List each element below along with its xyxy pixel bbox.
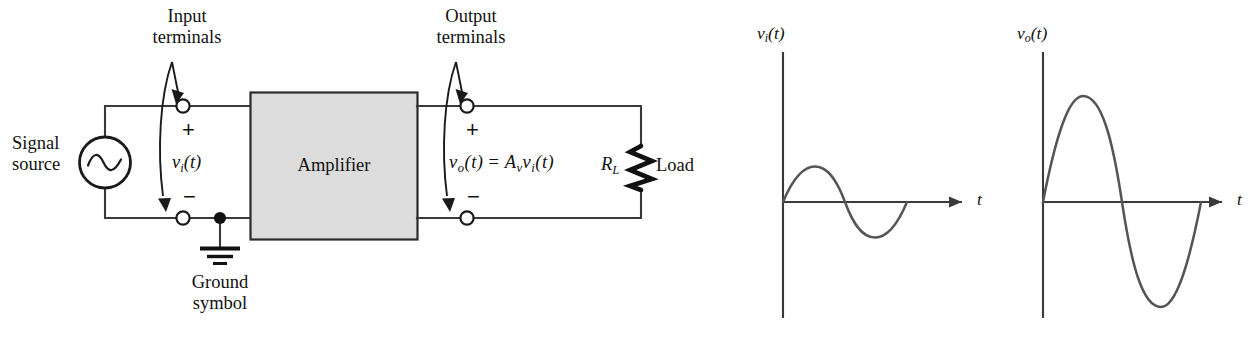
amplifier-label: Amplifier — [298, 155, 371, 176]
equation-lhs-subscript: o — [458, 161, 465, 175]
load-resistor-icon — [630, 146, 652, 190]
load-resistor-subscript: L — [612, 163, 619, 177]
input-plot-y-axis-label: vi(t) — [757, 24, 785, 46]
input-plus-sign: + — [182, 118, 195, 143]
input-plot-y-arg: (t) — [768, 23, 785, 43]
wire-output-top-to-load — [474, 106, 641, 146]
signal-source-label-line1: Signal — [12, 133, 60, 154]
input-terminal-negative — [176, 211, 189, 224]
ground-symbol-label-line2: symbol — [192, 293, 249, 314]
input-terminals-label-line1: Input — [153, 6, 222, 27]
ac-source-circle — [80, 137, 131, 188]
ground-symbol-label: Ground symbol — [192, 272, 249, 313]
signal-source-label-line2: source — [12, 154, 60, 175]
input-terminals-label-line2: terminals — [153, 27, 222, 48]
input-terminals-label: Input terminals — [153, 6, 222, 47]
wire-source-to-input-top — [105, 106, 176, 137]
input-voltage-arg: (t) — [184, 152, 201, 172]
equation-lhs-arg: (t) — [465, 152, 484, 172]
ground-symbol-label-line1: Ground — [192, 272, 249, 293]
input-voltage-var: v — [172, 152, 180, 172]
equation-rhs-arg: (t) — [535, 152, 554, 172]
output-plot-y-arg: (t) — [1031, 23, 1048, 43]
output-minus-sign: − — [467, 185, 480, 210]
input-terminal-positive — [176, 99, 189, 112]
output-plot-x-axis-label: t — [1237, 190, 1242, 210]
output-plus-sign: + — [466, 118, 479, 143]
input-leader-arrow-bottom — [158, 198, 171, 212]
input-plot-x-axis-label: t — [977, 190, 982, 210]
output-plot-y-axis-label: vo(t) — [1017, 24, 1047, 46]
output-terminals-label: Output terminals — [437, 6, 506, 47]
amplifier-figure: Signal source Input terminals + vi(t) − … — [0, 0, 1250, 337]
output-terminal-positive — [460, 99, 473, 112]
ground-symbol-icon — [200, 249, 240, 264]
input-voltage-label: vi(t) — [172, 152, 201, 175]
load-label: Load — [656, 155, 694, 176]
output-voltage-equation: vo(t) = Avvi(t) — [449, 152, 554, 175]
input-minus-sign: − — [183, 185, 196, 210]
equation-lhs-var: v — [449, 152, 458, 172]
output-leader-lines — [444, 62, 463, 196]
output-waveform-plot — [1043, 52, 1222, 318]
input-leader-lines — [160, 62, 179, 196]
ground-junction-dot — [214, 212, 226, 224]
output-terminals-label-line2: terminals — [437, 27, 506, 48]
output-leader-arrow-bottom — [442, 198, 455, 212]
output-plot-x-axis-arrowhead — [1209, 197, 1222, 208]
wire-load-to-output-bottom — [474, 190, 641, 218]
equation-equals-sign: = — [489, 152, 500, 172]
load-resistor-label: RL — [601, 154, 619, 177]
equation-rhs-var: v — [523, 152, 532, 172]
equation-gain-var: A — [505, 152, 517, 172]
input-plot-x-axis-arrowhead — [949, 197, 962, 208]
output-terminal-negative — [460, 211, 473, 224]
input-waveform-plot — [783, 52, 962, 318]
output-plot-y-var: v — [1017, 23, 1025, 43]
signal-source-label: Signal source — [12, 133, 60, 174]
load-resistor-symbol: R — [601, 154, 612, 174]
output-terminals-label-line1: Output — [437, 6, 506, 27]
input-plot-y-var: v — [757, 23, 765, 43]
